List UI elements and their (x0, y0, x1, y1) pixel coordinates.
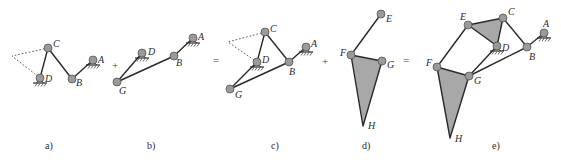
caption-d: d) (362, 140, 370, 152)
joint-F (347, 51, 355, 59)
panel-d: E F G H d) (339, 10, 394, 152)
link-GB (117, 56, 174, 82)
panel-b: D B A G b) (113, 31, 205, 152)
joint-D (253, 58, 261, 66)
label-C: C (508, 6, 515, 17)
label-D: D (44, 73, 53, 84)
label-D: D (147, 46, 156, 57)
caption-e: e) (492, 140, 500, 152)
triangular-plate-FGH (351, 55, 382, 126)
joint-A (189, 34, 197, 42)
joint-D (138, 49, 146, 57)
link-EF (437, 25, 468, 67)
label-H: H (454, 133, 463, 144)
label-G: G (474, 75, 481, 86)
label-B: B (529, 51, 535, 62)
label-E: E (459, 11, 466, 22)
label-D: D (501, 42, 510, 53)
label-A: A (97, 54, 105, 65)
joint-G (465, 72, 473, 80)
plus-operator: + (112, 59, 118, 71)
joint-E (377, 10, 385, 18)
plus-operator: + (322, 55, 328, 67)
caption-b: b) (147, 140, 155, 152)
joint-E (464, 21, 472, 29)
label-D: D (261, 54, 270, 65)
joint-D (36, 74, 44, 82)
caption-a: a) (45, 140, 53, 152)
link-EF (351, 14, 381, 55)
panel-e: E C D B A F G H e) (425, 6, 551, 152)
link-GD (230, 62, 257, 89)
label-C: C (270, 23, 277, 34)
link-GD (117, 53, 142, 82)
label-A: A (542, 18, 550, 29)
label-B: B (176, 57, 182, 68)
label-E: E (385, 13, 392, 24)
joint-F (433, 63, 441, 71)
joint-C (261, 28, 269, 36)
equals-operator: = (403, 54, 409, 66)
joint-C (44, 44, 52, 52)
joint-A (302, 43, 310, 51)
caption-c: c) (271, 140, 279, 152)
label-B: B (289, 66, 295, 77)
joint-G (378, 57, 386, 65)
label-G: G (119, 85, 126, 96)
joint-A (89, 56, 97, 64)
dashed-construction-lines (12, 48, 48, 78)
joint-B (68, 75, 76, 83)
joint-G (226, 85, 234, 93)
joint-D (493, 42, 501, 50)
label-B: B (76, 77, 82, 88)
label-F: F (339, 47, 347, 58)
panel-c: C D B A G c) (226, 23, 318, 152)
label-C: C (53, 38, 60, 49)
equals-operator: = (213, 54, 219, 66)
label-F: F (425, 57, 433, 68)
joint-B (523, 43, 531, 51)
dashed-construction-lines (228, 32, 265, 62)
label-A: A (310, 38, 318, 49)
joint-C (499, 14, 507, 22)
triangular-plate-FGH (437, 67, 469, 138)
panel-a: C D B A a) (12, 38, 105, 152)
label-H: H (367, 120, 376, 131)
joint-B (285, 58, 293, 66)
linkage-diagram: C D B A a) + D B A G b) = (0, 0, 561, 163)
joint-A (540, 29, 548, 37)
label-A: A (197, 31, 205, 42)
label-G: G (387, 59, 394, 70)
label-G: G (235, 89, 242, 100)
